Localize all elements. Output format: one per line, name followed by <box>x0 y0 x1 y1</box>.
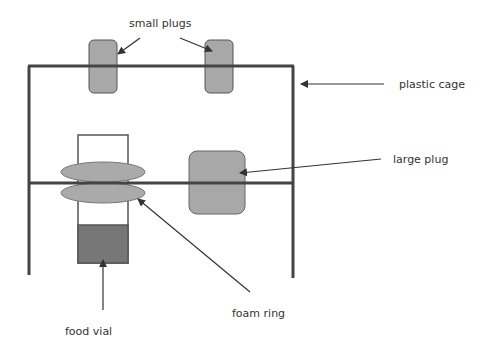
foam-ring-bottom <box>61 183 145 203</box>
arrow-large-plug <box>240 159 381 173</box>
foam-ring-top <box>61 162 145 182</box>
drosophila-cage-diagram: small plugs plastic cage large plug foam… <box>0 0 486 355</box>
food-vial <box>78 225 128 263</box>
label-large-plug: large plug <box>393 153 448 166</box>
label-food-vial: food vial <box>65 325 112 338</box>
arrow-small-plug-left <box>118 38 140 54</box>
label-small-plugs: small plugs <box>129 17 192 30</box>
label-foam-ring: foam ring <box>232 307 285 320</box>
label-plastic-cage: plastic cage <box>399 78 465 91</box>
